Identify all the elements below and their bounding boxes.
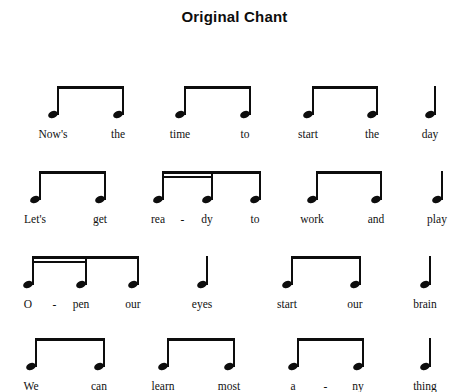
note-stem (32, 256, 34, 285)
notation-row: Wecanlearnmosta-nything (0, 292, 469, 377)
beam-primary (291, 256, 361, 259)
note-stem (85, 256, 87, 285)
note-stem (206, 256, 208, 285)
note-stem (104, 171, 106, 200)
lyric-syllable: learn (152, 380, 175, 392)
beam-primary (184, 86, 251, 89)
beam-primary (35, 338, 105, 341)
note-stem (316, 171, 318, 200)
note-stem (259, 171, 261, 200)
page-title: Original Chant (0, 8, 469, 25)
note-stem (359, 256, 361, 285)
note-stem (167, 338, 169, 367)
note-stem (362, 338, 364, 367)
note-stem (233, 338, 235, 367)
note-stem (297, 338, 299, 367)
note-stem (441, 171, 443, 200)
note-stem (103, 338, 105, 367)
beam-primary (312, 86, 378, 89)
beam-primary (39, 171, 106, 174)
note-stem (35, 338, 37, 367)
lyric-syllable: can (91, 380, 107, 392)
note-stem (184, 86, 186, 115)
lyric-syllable: a (290, 380, 295, 392)
notation-row: Now'sthetimetostarttheday (0, 40, 469, 125)
note-stem (291, 256, 293, 285)
note-stem (429, 338, 431, 367)
beam-primary (167, 338, 235, 341)
beam-primary (316, 171, 382, 174)
note-stem (380, 171, 382, 200)
note-stem (249, 86, 251, 115)
note-stem (429, 256, 431, 285)
note-stem (122, 86, 124, 115)
beam-primary (57, 86, 124, 89)
note-stem (376, 86, 378, 115)
lyric-syllable: thing (413, 380, 437, 392)
note-stem (39, 171, 41, 200)
note-stem (211, 171, 213, 200)
lyric-hyphen: - (324, 380, 328, 392)
lyric-syllable: ny (352, 380, 364, 392)
lyric-syllable: most (218, 380, 240, 392)
note-stem (57, 86, 59, 115)
notation-row: Let'sgetrea-dytoworkandplay (0, 125, 469, 210)
beam-primary (297, 338, 364, 341)
note-stem (312, 86, 314, 115)
lyric-syllable: We (23, 380, 38, 392)
note-stem (162, 171, 164, 200)
beam-secondary (162, 176, 213, 178)
beam-secondary (32, 261, 87, 263)
note-stem (137, 256, 139, 285)
note-stem (434, 86, 436, 115)
notation-row: O-penoureyesstartourbrain (0, 210, 469, 295)
